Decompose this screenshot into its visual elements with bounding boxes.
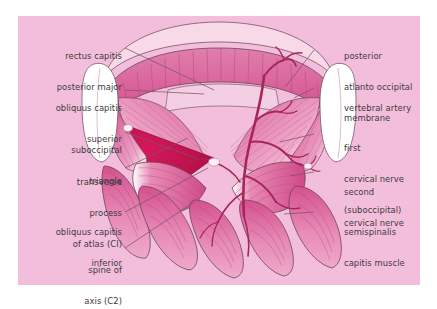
label-line: capitis muscle — [344, 258, 436, 268]
label-line: second — [344, 187, 436, 197]
label-spine-of-axis: spine of axis (C2) — [16, 244, 122, 309]
label-semispinalis-capitis-muscle: semispinalis capitis muscle — [344, 206, 436, 289]
label-line: semispinalis — [344, 227, 436, 237]
label-line: axis (C2) — [16, 296, 122, 306]
label-line: vertebral artery — [344, 103, 436, 113]
label-line: suboccipital — [16, 145, 122, 155]
label-line: obliquus capitis — [16, 103, 122, 113]
label-line: rectus capitis — [16, 51, 122, 61]
label-line: posterior — [344, 51, 436, 61]
label-line: spine of — [16, 265, 122, 275]
label-line: first — [344, 143, 436, 153]
label-line: obliquus capitis — [12, 227, 122, 237]
label-line: transverse — [16, 177, 122, 187]
